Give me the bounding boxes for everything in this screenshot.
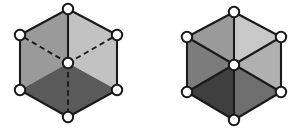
vertex-bottom: [229, 115, 239, 125]
vertex-lower-right: [112, 85, 122, 95]
vertex-lower-left: [15, 85, 25, 95]
vertex-top: [63, 4, 73, 14]
vertex-upper-right: [112, 30, 122, 40]
vertex-center: [229, 60, 239, 70]
vertex-top: [229, 7, 239, 17]
vertex-center: [63, 58, 73, 68]
vertex-upper-left: [182, 32, 192, 42]
vertex-lower-right: [276, 87, 286, 97]
vertex-lower-left: [182, 87, 192, 97]
figure-canvas: [0, 0, 301, 134]
vertex-upper-left: [15, 30, 25, 40]
vertex-upper-right: [276, 32, 286, 42]
vertex-bottom: [63, 112, 73, 122]
